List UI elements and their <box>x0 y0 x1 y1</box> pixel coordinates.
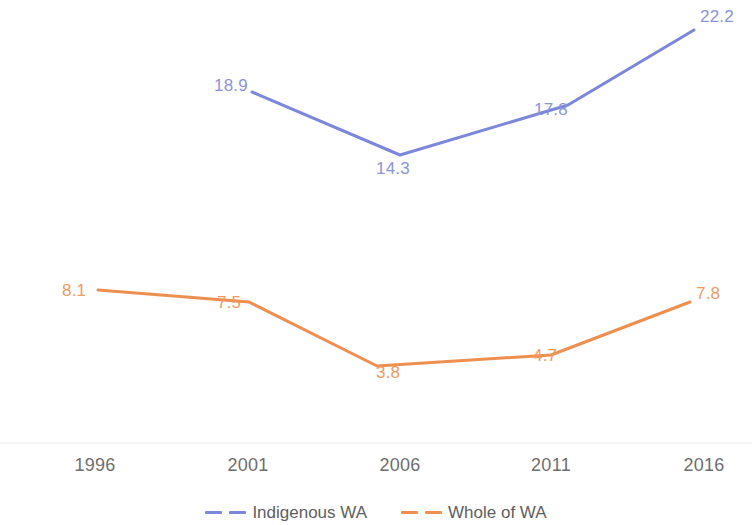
data-label-indigenous-1: 14.3 <box>376 160 410 177</box>
legend-entry-indigenous-wa[interactable]: Indigenous WA <box>205 503 367 523</box>
data-label-whole-0: 8.1 <box>62 282 86 299</box>
data-label-indigenous-0: 18.9 <box>214 77 248 94</box>
legend-dash-icon-0 <box>205 511 246 514</box>
x-tick-label-2011: 2011 <box>531 455 571 476</box>
x-tick-label-2001: 2001 <box>227 455 268 476</box>
legend-dash-segment <box>425 511 442 514</box>
x-tick-label-2016: 2016 <box>683 455 724 476</box>
data-label-whole-3: 4.7 <box>533 347 557 364</box>
data-label-whole-2: 3.8 <box>376 364 400 381</box>
legend-dash-segment <box>229 511 246 514</box>
data-label-whole-4: 7.8 <box>696 285 720 302</box>
legend-label: Whole of WA <box>448 503 547 523</box>
data-label-indigenous-3: 22.2 <box>700 8 734 25</box>
legend-dash-segment <box>401 511 418 514</box>
x-tick-label-2006: 2006 <box>379 455 420 476</box>
chart-canvas <box>0 0 752 455</box>
line-chart: 18.914.317.822.2 8.17.53.84.77.8 1996200… <box>0 0 752 525</box>
legend-dash-segment <box>205 511 222 514</box>
series-line-indigenous-wa <box>252 30 694 155</box>
x-tick-label-1996: 1996 <box>74 455 115 476</box>
legend-label: Indigenous WA <box>252 503 367 523</box>
x-axis-tick-labels: 19962001200620112016 <box>0 455 752 489</box>
data-label-whole-1: 7.5 <box>217 294 241 311</box>
series-line-whole-of-wa <box>98 290 690 366</box>
chart-legend: Indigenous WAWhole of WA <box>0 500 752 525</box>
legend-dash-icon-1 <box>401 511 442 514</box>
data-label-indigenous-2: 17.8 <box>534 101 568 118</box>
legend-entry-whole-of-wa[interactable]: Whole of WA <box>401 503 547 523</box>
plot-area: 18.914.317.822.2 8.17.53.84.77.8 <box>0 0 752 455</box>
